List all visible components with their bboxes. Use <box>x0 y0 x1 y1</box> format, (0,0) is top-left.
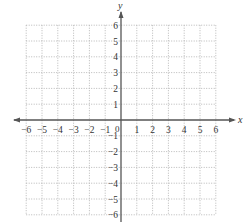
x-tick-label: −3 <box>69 125 79 135</box>
x-tick-label: 5 <box>198 125 203 135</box>
y-tick-label: −3 <box>108 163 118 173</box>
x-axis-left-arrow-icon <box>13 118 20 123</box>
y-tick-label: −2 <box>108 147 118 157</box>
y-axis-label: y <box>117 0 123 11</box>
x-tick-label: −2 <box>84 125 94 135</box>
y-tick-label: −5 <box>108 195 118 205</box>
x-tick-label: 4 <box>182 125 187 135</box>
x-tick-label: 6 <box>213 125 218 135</box>
y-tick-label: 1 <box>113 100 118 110</box>
x-tick-label: −5 <box>37 125 47 135</box>
x-tick-label: −4 <box>53 125 63 135</box>
x-axis-label: x <box>237 114 243 125</box>
x-tick-label: 3 <box>166 125 171 135</box>
x-tick-label: −6 <box>21 125 31 135</box>
x-tick-label: 1 <box>134 125 139 135</box>
y-tick-label: −6 <box>108 210 118 220</box>
coordinate-plane: x y 0 −6−5−4−3−2−1123456 654321−1−2−3−4−… <box>0 0 252 222</box>
x-tick-labels: −6−5−4−3−2−1123456 <box>21 125 218 135</box>
x-tick-label: 2 <box>150 125 155 135</box>
y-tick-label: −4 <box>108 179 118 189</box>
y-tick-label: −1 <box>108 131 118 141</box>
x-axis-right-arrow-icon <box>229 118 236 123</box>
y-tick-label: 4 <box>113 52 118 62</box>
y-tick-label: 6 <box>113 21 118 31</box>
axes <box>13 11 236 222</box>
y-tick-label: 5 <box>113 37 118 47</box>
y-axis-up-arrow-icon <box>119 11 124 18</box>
y-tick-label: 3 <box>113 68 118 78</box>
y-tick-label: 2 <box>113 84 118 94</box>
